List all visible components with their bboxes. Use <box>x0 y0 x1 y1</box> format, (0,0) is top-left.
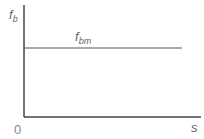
origin-label: 0 <box>14 123 21 136</box>
y-axis-label-sub: b <box>13 14 18 24</box>
diagram-canvas <box>0 0 204 139</box>
y-axis-label: fb <box>9 8 18 24</box>
fbm-label-sub: bm <box>79 36 92 46</box>
fbm-line-label: fbm <box>75 30 91 46</box>
x-axis-label: s <box>191 121 198 134</box>
